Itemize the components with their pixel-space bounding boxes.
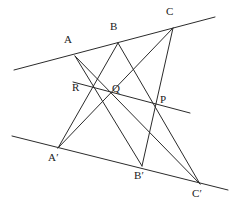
point-label-P: P bbox=[160, 94, 166, 105]
segment-B-Cprime bbox=[118, 43, 200, 184]
point-label-A: A bbox=[64, 34, 72, 45]
geometry-drawing bbox=[0, 0, 241, 205]
point-label-Q: Q bbox=[112, 83, 120, 94]
point-label-C: C bbox=[166, 6, 174, 17]
lines-group bbox=[12, 17, 228, 190]
pappus-figure-canvas: ABCRQPA′B′C′ bbox=[0, 0, 241, 205]
point-label-A1: A′ bbox=[48, 152, 59, 163]
line-through-Aprime-Bprime-Cprime bbox=[12, 136, 228, 190]
segment-A-Bprime bbox=[75, 56, 142, 166]
segment-C-Bprime bbox=[142, 28, 173, 166]
point-label-B1: B′ bbox=[134, 170, 144, 181]
point-label-C1: C′ bbox=[192, 188, 202, 199]
segment-A-Cprime bbox=[75, 56, 200, 184]
point-label-R: R bbox=[72, 82, 80, 93]
point-label-B: B bbox=[110, 21, 118, 32]
pappus-line-R-Q-P bbox=[73, 82, 190, 113]
